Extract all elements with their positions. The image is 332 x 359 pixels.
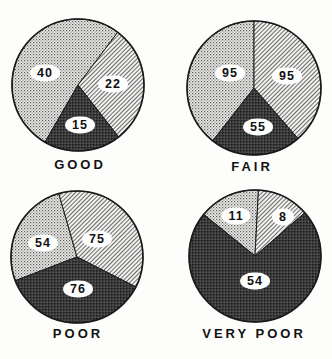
pie-charts-canvas xyxy=(0,0,332,359)
pie-poor xyxy=(11,191,143,323)
slice-value-label: 22 xyxy=(98,76,128,93)
pie-very-poor xyxy=(189,190,321,322)
slice-value-label: 95 xyxy=(215,65,245,82)
slice-value-label: 76 xyxy=(63,281,93,298)
slice-value-label: 8 xyxy=(272,209,294,226)
pie-title: GOOD xyxy=(54,157,106,172)
pie-title: VERY POOR xyxy=(202,326,306,341)
slice-value-label: 15 xyxy=(65,117,95,134)
slice-value-label: 54 xyxy=(28,235,58,252)
pie-title: POOR xyxy=(53,326,103,341)
slice-value-label: 75 xyxy=(82,231,112,248)
slice-value-label: 55 xyxy=(243,119,273,136)
pie-title: FAIR xyxy=(231,159,273,174)
slice-value-label: 95 xyxy=(272,68,302,85)
slice-value-label: 11 xyxy=(221,208,250,225)
slice-value-label: 54 xyxy=(240,273,270,290)
slice-value-label: 40 xyxy=(30,65,60,82)
